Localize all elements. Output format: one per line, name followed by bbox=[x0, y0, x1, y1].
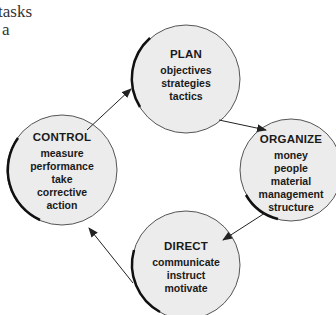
node-title: ORGANIZE bbox=[260, 133, 322, 145]
arrow-control-to-plan bbox=[87, 89, 131, 130]
arrow-direct-to-control bbox=[89, 228, 133, 283]
node-item: performance bbox=[30, 160, 94, 173]
node-item: money bbox=[274, 149, 308, 162]
node-item: management bbox=[259, 188, 324, 201]
node-organize: ORGANIZE money people material managemen… bbox=[241, 132, 336, 214]
node-item: material bbox=[271, 175, 311, 188]
node-item: people bbox=[274, 162, 308, 175]
node-title: CONTROL bbox=[33, 131, 91, 143]
node-item: structure bbox=[268, 201, 314, 214]
node-item: measure bbox=[40, 147, 83, 160]
node-item: communicate bbox=[152, 256, 220, 269]
node-plan: PLAN objectives strategies tactics bbox=[136, 40, 236, 110]
node-control: CONTROL measure performance take correct… bbox=[12, 128, 112, 214]
node-item: tactics bbox=[169, 90, 202, 103]
node-item: take bbox=[51, 173, 72, 186]
node-item: action bbox=[47, 199, 78, 212]
node-title: PLAN bbox=[170, 48, 202, 60]
arrow-plan-to-organize bbox=[219, 120, 266, 130]
node-title: DIRECT bbox=[164, 240, 208, 252]
node-item: objectives bbox=[160, 64, 211, 77]
node-item: instruct bbox=[167, 269, 206, 282]
node-item: corrective bbox=[37, 186, 87, 199]
node-item: strategies bbox=[161, 77, 211, 90]
node-item: motivate bbox=[164, 282, 207, 295]
node-direct: DIRECT communicate instruct motivate bbox=[136, 235, 236, 299]
